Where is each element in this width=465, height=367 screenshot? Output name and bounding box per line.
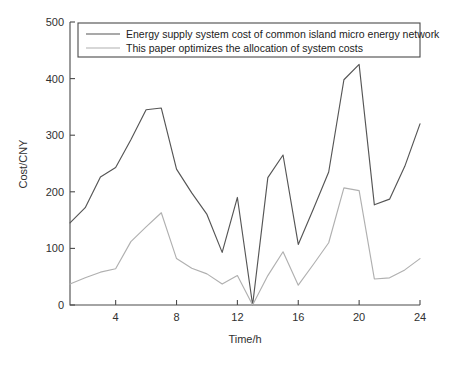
line-chart: 0100200300400500 4812162024 Cost/CNY Tim…: [0, 0, 465, 367]
x-tick-label: 20: [353, 311, 365, 323]
legend-label-series-2: This paper optimizes the allocation of s…: [126, 42, 363, 54]
x-tick-label: 4: [113, 311, 119, 323]
y-tick-label: 0: [58, 299, 64, 311]
y-tick-label: 400: [46, 73, 64, 85]
x-tick-label: 24: [414, 311, 426, 323]
y-axis-label: Cost/CNY: [17, 139, 29, 189]
x-axis-label: Time/h: [228, 333, 261, 345]
series-line-1: [70, 64, 420, 305]
y-tick-label: 100: [46, 242, 64, 254]
chart-figure: 0100200300400500 4812162024 Cost/CNY Tim…: [0, 0, 465, 367]
series-line-2: [70, 188, 420, 305]
y-tick-label: 500: [46, 16, 64, 28]
data-series-group: [70, 64, 420, 305]
axis-lines: [70, 22, 420, 305]
x-tick-label: 12: [231, 311, 243, 323]
y-axis-ticks: 0100200300400500: [46, 16, 75, 311]
y-tick-label: 300: [46, 129, 64, 141]
y-tick-label: 200: [46, 186, 64, 198]
x-tick-label: 8: [173, 311, 179, 323]
x-axis-ticks: 4812162024: [113, 300, 427, 323]
chart-legend: Energy supply system cost of common isla…: [78, 23, 440, 57]
x-tick-label: 16: [292, 311, 304, 323]
legend-label-series-1: Energy supply system cost of common isla…: [126, 28, 440, 40]
